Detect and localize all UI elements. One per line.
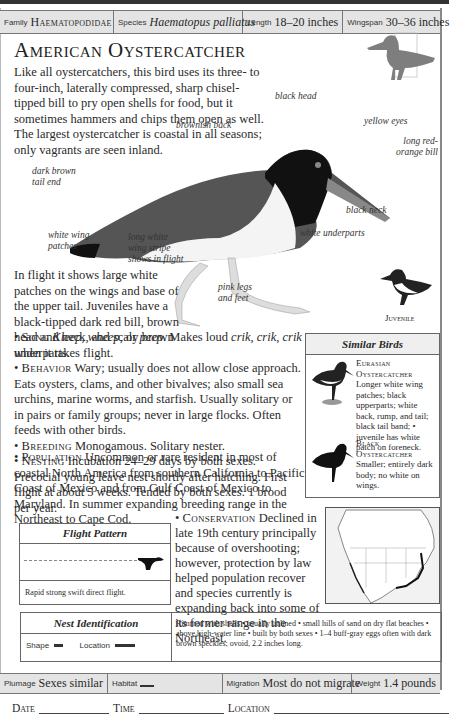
callout-white-wing-patches: white wing patches [48, 230, 96, 252]
similar-item-black: Black Oystercatcher Smaller; entirely da… [356, 438, 438, 491]
location-field[interactable] [274, 702, 449, 714]
species-cell: Species Haematopus palliatus [114, 11, 243, 33]
date-label: Date [12, 702, 35, 714]
plumage-value: Sexes similar [39, 676, 103, 691]
callout-wing-stripe: long white wing stripe shows in flight [128, 232, 186, 265]
flight-pattern-caption: Rapid strong swift direct flight. [20, 581, 170, 604]
range-map [325, 507, 440, 604]
nest-location-icon [115, 644, 135, 647]
time-label: Time [113, 702, 135, 714]
plumage-cell: Plumage Sexes similar [0, 674, 108, 693]
family-cell: Family Haematopodidae [0, 11, 114, 33]
nest-shape-icon [54, 644, 63, 647]
song-crik: crik, crik, crik [231, 330, 302, 344]
page-title: American Oystercatcher [14, 38, 246, 63]
black-desc: Smaller; entirely dark body; no white on… [356, 459, 438, 491]
observation-log: Date Time Location [12, 702, 449, 714]
behavior-section: • Behavior Wary; usually does not allow … [14, 361, 304, 439]
plumage-label: Plumage [4, 679, 36, 688]
species-label: Species [118, 18, 146, 27]
callout-brownish-back: brownish back [176, 120, 231, 131]
song-heading: Song [22, 330, 50, 344]
bird-silhouette-icon [365, 28, 445, 88]
habitat-shore-icon [140, 681, 154, 687]
behavior-heading: Behavior [22, 361, 72, 375]
location-label: Location [228, 702, 270, 714]
song-peep: peep [139, 330, 163, 344]
wingspan-label: Wingspan [347, 18, 383, 27]
family-value: Haematopodidae [31, 15, 112, 30]
length-cell: Length 18–20 inches [243, 11, 343, 33]
population-heading: Population [22, 450, 82, 464]
flight-pattern-diagram [20, 544, 170, 581]
callout-bill: long red-orange bill [380, 136, 438, 158]
song-section: • Song Kleep, wheep, or peep. Makes loud… [14, 330, 304, 361]
callout-black-head: black head [275, 91, 316, 102]
nest-shape-label: Shape [26, 641, 49, 650]
eurasian-name: Eurasian Oystercatcher [356, 358, 438, 379]
similar-birds-title: Similar Birds [306, 334, 439, 355]
black-oystercatcher-illustration [310, 436, 354, 486]
family-label: Family [4, 18, 28, 27]
date-field[interactable] [39, 702, 109, 714]
length-label: Length [247, 18, 271, 27]
migration-label: Migration [227, 679, 260, 688]
footer-bar: Plumage Sexes similar Habitat Migration … [0, 673, 440, 694]
song-kleep: Kleep, wheep, [52, 330, 122, 344]
flying-bird-icon [138, 552, 166, 572]
song-end: when it takes flight. [14, 346, 113, 360]
callout-yellow-eyes: yellow eyes [364, 116, 408, 127]
length-value: 18–20 inches [274, 15, 338, 30]
black-name: Black Oystercatcher [356, 438, 438, 459]
north-america-map [326, 508, 439, 603]
callout-black-neck: black neck [346, 205, 386, 216]
nest-location-label: Location [80, 641, 110, 650]
song-text: . Makes loud [163, 330, 231, 344]
species-value: Haematopus palliatus [149, 15, 255, 30]
nest-shape-location: Shape Location [21, 634, 171, 657]
juvenile-illustration [378, 265, 433, 310]
nest-identification-box: Nest Identification Shape Location Rimme… [20, 612, 442, 662]
habitat-cell: Habitat [108, 674, 223, 693]
nest-description: Rimmed with shells • usually unlined • s… [172, 613, 441, 661]
callout-white-underparts: white underparts [300, 228, 365, 239]
weight-label: Weight [356, 679, 381, 688]
callout-tail-end: dark brown tail end [32, 166, 78, 188]
flight-pattern-title: Flight Pattern [20, 524, 170, 544]
time-field[interactable] [139, 702, 224, 714]
juvenile-label: Juvenile [385, 313, 415, 323]
weight-value: 1.4 pounds [383, 676, 436, 691]
callout-legs: pink legs and feet [218, 282, 258, 304]
habitat-label: Habitat [112, 679, 137, 688]
nest-left-panel: Nest Identification Shape Location [21, 613, 172, 661]
song-or: or [123, 330, 140, 344]
weight-cell: Weight 1.4 pounds [352, 674, 440, 693]
migration-value: Most do not migrate [262, 676, 360, 691]
similar-birds-box: Similar Birds Eurasian Oystercatcher Lon… [305, 333, 440, 498]
top-rule [0, 0, 449, 4]
eurasian-oystercatcher-illustration [310, 356, 354, 406]
conservation-heading: Conservation [183, 511, 256, 525]
flight-pattern-box: Flight Pattern Rapid strong swift direct… [19, 523, 171, 605]
nest-title: Nest Identification [21, 613, 171, 634]
migration-cell: Migration Most do not migrate [223, 674, 352, 693]
